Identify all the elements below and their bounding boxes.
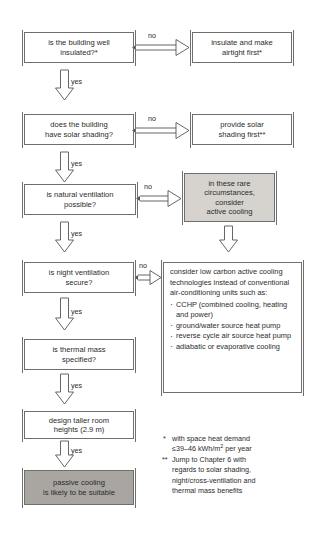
node-question-thermal-mass[interactable]: is thermal mass specified?: [24, 339, 134, 370]
node-label: does the building have solar shading?: [45, 120, 113, 139]
footnotes: * with space heat demand ≤39–46 kWh/m2 p…: [163, 434, 308, 497]
footnote-2: ** Jump to Chapter 6 with regards to sol…: [163, 455, 308, 497]
footnote-line: with space heat demand: [172, 434, 250, 443]
edge-label-no-1: no: [148, 31, 156, 40]
textblock-intro: consider low carbon active cooling techn…: [170, 267, 296, 299]
node-label: passive cooling is likely to be suitable: [43, 478, 115, 497]
edge-no-4: [135, 271, 162, 285]
node-label: in these rare circumstances, consider ac…: [204, 179, 255, 217]
node-label: design taller room heights (2.9 m): [49, 416, 109, 435]
node-question-insulation[interactable]: is the building well insulated?*: [24, 32, 134, 63]
footnote-line: night/cross-ventilation and: [172, 476, 256, 485]
edge-label-yes-4: yes: [71, 307, 82, 316]
node-label: insulate and make airtight first*: [211, 38, 273, 57]
footnote-line: ≤39–46 kWh/m: [172, 444, 220, 453]
edge-active-cooling-to-options: [220, 226, 238, 252]
edge-label-yes-3: yes: [71, 229, 82, 238]
edge-no-2: [132, 123, 189, 139]
list-item: CCHP (combined cooling, heating and powe…: [170, 300, 296, 321]
list-item: reverse cycle air source heat pump: [170, 331, 296, 342]
footnote-line: per year: [223, 444, 251, 453]
node-question-solar-shading[interactable]: does the building have solar shading?: [24, 114, 134, 145]
node-label: is thermal mass specified?: [52, 345, 105, 364]
edge-label-no-4: no: [139, 261, 147, 270]
list-item: ground/water source heat pump: [170, 321, 296, 332]
edge-label-yes-5: yes: [71, 381, 82, 390]
node-active-cooling-rare-circumstances[interactable]: in these rare circumstances, consider ac…: [184, 173, 275, 222]
footnote-marker: *: [163, 434, 166, 444]
footnote-line: thermal mass benefits: [172, 486, 242, 495]
node-label: is the building well insulated?*: [48, 38, 110, 57]
edge-no-1: [132, 40, 189, 56]
edge-label-yes-2: yes: [71, 159, 82, 168]
footnote-1: * with space heat demand ≤39–46 kWh/m2 p…: [163, 434, 308, 455]
node-question-night-ventilation-secure[interactable]: is night ventilation secure?: [24, 262, 134, 293]
edge-label-yes-6: yes: [71, 446, 82, 455]
footnote-line: regards to solar shading,: [172, 465, 251, 474]
footnote-line: Jump to Chapter 6 with: [172, 455, 246, 464]
node-question-natural-ventilation[interactable]: is natural ventilation possible?: [24, 184, 136, 215]
node-action-provide-solar-shading[interactable]: provide solar shading first**: [192, 114, 292, 145]
edge-label-no-2: no: [148, 114, 156, 123]
node-action-insulate-airtight[interactable]: insulate and make airtight first*: [192, 32, 292, 63]
node-label: is natural ventilation possible?: [46, 190, 113, 209]
textblock-option-list: CCHP (combined cooling, heating and powe…: [170, 300, 296, 353]
node-outcome-passive-cooling-suitable[interactable]: passive cooling is likely to be suitable: [24, 470, 134, 505]
node-label: provide solar shading first**: [219, 120, 266, 139]
flowchart-canvas: is the building well insulated?* insulat…: [0, 0, 316, 547]
textblock-low-carbon-cooling-options: consider low carbon active cooling techn…: [163, 262, 302, 393]
list-item: adiabatic or evaporative cooling: [170, 342, 296, 353]
footnote-marker: **: [162, 455, 168, 465]
node-action-taller-room-heights[interactable]: design taller room heights (2.9 m): [24, 411, 134, 439]
edge-label-yes-1: yes: [71, 77, 82, 86]
edge-no-3: [136, 191, 181, 207]
edge-label-no-3: no: [144, 182, 152, 191]
node-label: is night ventilation secure?: [49, 268, 109, 287]
